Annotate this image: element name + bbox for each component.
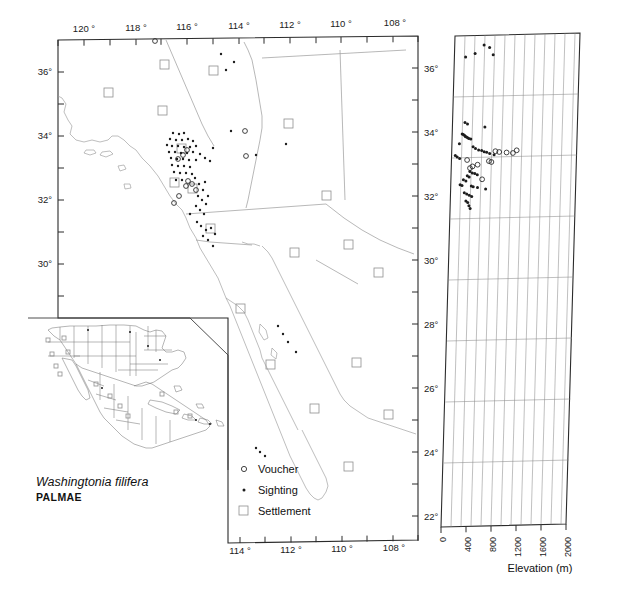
border-us-mexico <box>186 204 326 214</box>
elevation-sighting-point <box>484 188 487 191</box>
left-axis-ticks <box>58 72 64 296</box>
right-axis-label-2: 32° <box>424 191 439 202</box>
inset-sighting-marker <box>159 359 161 361</box>
sighting-marker <box>259 451 261 453</box>
elevation-sighting-point <box>466 201 469 204</box>
family-name: PALMAE <box>36 491 82 503</box>
right-axis-labels: 36° 34° 32° 30° 28° 26° 24° 22° <box>424 63 439 522</box>
sighting-marker <box>196 221 198 223</box>
inset-settlement-marker <box>108 394 112 398</box>
map-legend: Voucher Sighting Settlement <box>239 463 311 517</box>
island-channel-3 <box>118 165 126 171</box>
elevation-sighting-point <box>468 176 471 179</box>
voucher-marker <box>243 129 248 134</box>
inset-map-frame <box>28 318 228 470</box>
elevation-sighting-point <box>488 46 491 49</box>
settlement-marker <box>188 184 197 193</box>
border-colorado-river <box>244 42 262 208</box>
right-axis-label-6: 24° <box>424 447 439 458</box>
elevation-sighting-point <box>474 147 477 150</box>
sighting-marker <box>282 333 284 335</box>
sighting-marker <box>189 166 191 168</box>
elevation-sighting-point <box>469 138 472 141</box>
sighting-marker <box>201 199 203 201</box>
inset-state-lines <box>48 325 172 376</box>
top-axis-label-4: 112 ° <box>279 19 301 30</box>
inset-map <box>28 318 228 470</box>
inset-occurrence-markers <box>46 329 211 425</box>
right-axis-label-1: 34° <box>424 127 439 138</box>
sighting-marker <box>175 179 177 181</box>
main-map-frame <box>58 36 418 543</box>
sighting-marker <box>189 213 191 215</box>
sighting-marker <box>180 152 182 154</box>
coastline-sonora <box>242 242 260 246</box>
elevation-data-points <box>454 44 519 210</box>
sighting-marker <box>185 172 187 174</box>
elevation-sighting-point <box>469 207 472 210</box>
left-axis-label-2: 32° <box>38 194 53 205</box>
settlement-marker <box>209 66 218 75</box>
elevation-sighting-point <box>488 152 491 155</box>
inset-sighting-marker <box>147 345 149 347</box>
sighting-marker <box>192 140 194 142</box>
sighting-marker <box>187 138 189 140</box>
elevation-sighting-point <box>461 184 464 187</box>
left-axis-label-1: 34° <box>38 130 53 141</box>
sighting-marker <box>172 132 174 134</box>
elevation-sighting-point <box>471 172 474 175</box>
bottom-axis-label-1: 112 ° <box>280 544 302 555</box>
sighting-marker <box>277 325 279 327</box>
border-nevada <box>166 40 214 146</box>
sighting-marker <box>177 165 179 167</box>
elevation-vertical-gridlines <box>451 33 575 527</box>
elevation-sighting-point <box>464 121 467 124</box>
elevation-sighting-point <box>492 53 495 56</box>
elevation-tick-5: 2000 <box>563 537 573 557</box>
sighting-marker <box>189 146 191 148</box>
inset-sighting-marker <box>129 331 131 333</box>
top-axis-label-1: 118 ° <box>125 22 147 33</box>
elevation-sighting-point <box>474 52 477 55</box>
elevation-sighting-point <box>485 151 488 154</box>
elevation-sighting-point <box>470 195 473 198</box>
left-axis-label-3: 30° <box>38 258 53 269</box>
sighting-marker <box>212 245 214 247</box>
elevation-sighting-point <box>476 173 479 176</box>
sighting-marker <box>171 164 173 166</box>
sighting-marker <box>188 159 190 161</box>
elevation-sighting-point <box>464 56 467 59</box>
sighting-marker <box>169 138 171 140</box>
inset-caribbean-islands <box>148 386 224 426</box>
island-gulf-1 <box>259 324 268 340</box>
island-channel-1 <box>84 150 96 155</box>
elevation-sighting-point <box>467 204 470 207</box>
elevation-tick-1: 400 <box>463 537 473 552</box>
bottom-axis-label-0: 114 ° <box>229 545 251 556</box>
elevation-x-tick-labels: 0 400 800 1200 1600 2000 <box>438 537 573 557</box>
settlement-marker <box>384 410 393 419</box>
sighting-marker <box>205 229 207 231</box>
sighting-marker <box>225 69 227 71</box>
right-axis-label-5: 26° <box>424 383 439 394</box>
sighting-marker <box>182 158 184 160</box>
border-arizona-utah <box>262 50 406 58</box>
inset-mexico-states <box>88 372 170 444</box>
elevation-voucher-point <box>465 158 470 163</box>
settlement-marker <box>266 360 275 369</box>
sighting-marker <box>255 154 257 156</box>
legend-label-voucher: Voucher <box>258 463 299 475</box>
sighting-icon <box>243 489 246 492</box>
sighting-marker <box>195 159 197 161</box>
inset-sighting-marker <box>195 419 197 421</box>
inset-settlement-marker <box>58 372 62 376</box>
top-axis-label-3: 114 ° <box>228 20 250 31</box>
voucher-marker <box>244 154 249 159</box>
voucher-marker <box>185 148 190 153</box>
sighting-marker <box>264 455 266 457</box>
sighting-marker <box>204 157 206 159</box>
map-geography <box>58 40 416 500</box>
left-axis-labels: 36° 34° 32° 30° <box>38 66 53 269</box>
elevation-sighting-point <box>458 142 461 145</box>
sighting-marker <box>178 133 180 135</box>
